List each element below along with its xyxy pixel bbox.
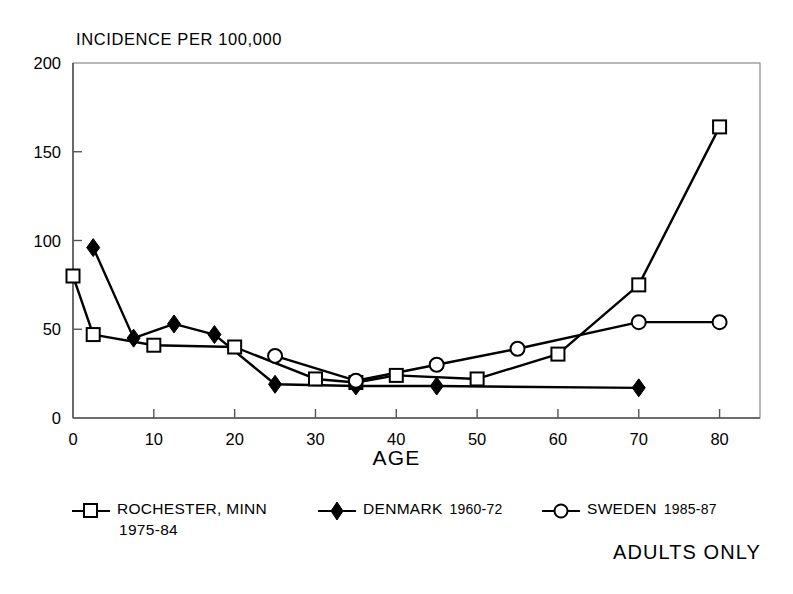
- marker-rochester-minn: [87, 328, 100, 341]
- marker-sweden: [268, 349, 282, 363]
- marker-rochester-minn: [551, 348, 564, 361]
- adults-only-note: ADULTS ONLY: [613, 541, 761, 564]
- legend-item-sweden[interactable]: SWEDEN1985-87: [540, 500, 717, 520]
- marker-sweden: [632, 315, 646, 329]
- marker-rochester-minn: [67, 270, 80, 283]
- legend-sublabel-rochester: 1975-84: [119, 521, 267, 539]
- legend-label-sweden: SWEDEN: [587, 500, 657, 517]
- plot-frame: [73, 63, 760, 418]
- plot-area: 05010015020001020304050607080: [0, 0, 793, 470]
- y-tick-label: 0: [52, 409, 61, 427]
- open-circle-icon: [540, 502, 582, 520]
- legend-years-sweden: 1985-87: [664, 501, 717, 517]
- legend-item-rochester[interactable]: ROCHESTER, MINN 1975-84: [70, 500, 267, 539]
- marker-sweden: [430, 358, 444, 372]
- marker-sweden: [349, 374, 363, 388]
- y-tick-label: 150: [33, 143, 61, 161]
- marker-rochester-minn: [228, 341, 241, 354]
- y-tick-label: 50: [43, 320, 61, 338]
- legend-years-denmark: 1960-72: [450, 501, 503, 517]
- marker-sweden: [511, 342, 525, 356]
- chart-figure: INCIDENCE PER 100,000 050100150200010203…: [0, 0, 793, 594]
- y-tick-label: 200: [33, 54, 61, 72]
- legend-item-denmark[interactable]: DENMARK1960-72: [316, 500, 502, 520]
- marker-rochester-minn: [390, 369, 403, 382]
- marker-rochester-minn: [309, 372, 322, 385]
- x-axis-title: AGE: [0, 446, 793, 470]
- marker-rochester-minn: [713, 120, 726, 133]
- open-square-icon: [70, 502, 112, 520]
- legend-label-rochester: ROCHESTER, MINN: [117, 500, 267, 517]
- marker-sweden: [713, 315, 727, 329]
- filled-diamond-icon: [316, 502, 358, 520]
- legend-label-denmark: DENMARK: [363, 500, 443, 517]
- marker-rochester-minn: [471, 372, 484, 385]
- marker-rochester-minn: [147, 339, 160, 352]
- y-tick-label: 100: [33, 232, 61, 250]
- marker-rochester-minn: [632, 278, 645, 291]
